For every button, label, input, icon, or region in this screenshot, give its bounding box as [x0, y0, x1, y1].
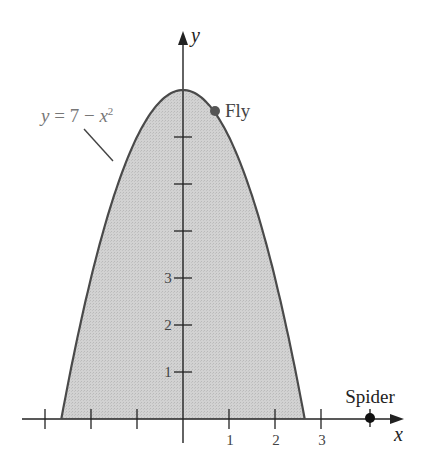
y-tick-label-1: 1 — [164, 364, 172, 380]
x-tick-label-2: 2 — [272, 432, 280, 448]
figure: y = 7 − x2 y x 1 2 3 1 2 3 Fly Spider — [0, 0, 426, 460]
y-axis-label: y — [189, 24, 200, 47]
fly-label: Fly — [225, 100, 251, 121]
y-axis-arrow-icon — [178, 31, 188, 45]
x-tick-label-1: 1 — [226, 432, 234, 448]
fly-point — [210, 106, 220, 116]
equation-leader-line — [84, 129, 113, 161]
y-tick-label-3: 3 — [164, 270, 172, 286]
spider-label: Spider — [345, 386, 395, 407]
x-tick-label-3: 3 — [318, 432, 326, 448]
equation-label: y = 7 − x2 — [39, 105, 113, 126]
x-axis-label: x — [393, 423, 403, 445]
y-tick-label-2: 2 — [164, 317, 172, 333]
